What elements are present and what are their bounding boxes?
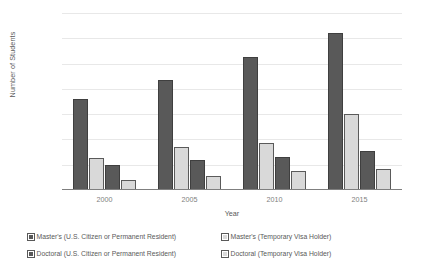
bar-groups — [62, 13, 402, 190]
chart-legend: Master's (U.S. Citizen or Permanent Resi… — [28, 228, 420, 262]
bar — [275, 157, 290, 190]
bar — [89, 158, 104, 190]
bar — [259, 143, 274, 190]
bar — [291, 171, 306, 190]
bar — [174, 147, 189, 190]
legend-item[interactable]: Master's (Temporary Visa Holder) — [222, 233, 420, 240]
legend-swatch-icon — [222, 251, 228, 257]
bar-group — [147, 13, 232, 190]
legend-item[interactable]: Doctoral (U.S. Citizen or Permanent Resi… — [28, 250, 222, 257]
legend-swatch-icon — [222, 234, 228, 240]
legend-label: Master's (Temporary Visa Holder) — [231, 233, 332, 240]
bar — [328, 33, 343, 190]
bar — [105, 165, 120, 190]
legend-swatch-icon — [28, 234, 34, 240]
bar — [360, 151, 375, 190]
bar-chart: Number of Students 020,00040,00060,00080… — [0, 0, 425, 268]
legend-label: Doctoral (Temporary Visa Holder) — [231, 250, 332, 257]
x-axis-tick-labels: 2000200520102015 — [62, 195, 402, 204]
bar — [158, 80, 173, 190]
x-axis-title: Year — [62, 209, 402, 218]
x-axis-tick-label: 2005 — [147, 195, 232, 204]
x-axis-tick-label: 2010 — [232, 195, 317, 204]
legend-item[interactable]: Master's (U.S. Citizen or Permanent Resi… — [28, 233, 222, 240]
x-axis-tick-label: 2015 — [317, 195, 402, 204]
legend-label: Doctoral (U.S. Citizen or Permanent Resi… — [37, 250, 176, 257]
bar — [376, 169, 391, 190]
bar-group — [62, 13, 147, 190]
legend-item[interactable]: Doctoral (Temporary Visa Holder) — [222, 250, 420, 257]
bar — [73, 99, 88, 190]
x-axis-tick-label: 2000 — [62, 195, 147, 204]
y-axis-title: Number of Students — [8, 10, 17, 120]
legend-label: Master's (U.S. Citizen or Permanent Resi… — [37, 233, 177, 240]
legend-swatch-icon — [28, 251, 34, 257]
bar — [243, 57, 258, 190]
bar — [190, 160, 205, 190]
plot-area — [62, 13, 402, 190]
bar — [344, 114, 359, 190]
bar-group — [317, 13, 402, 190]
bar-group — [232, 13, 317, 190]
gridline — [62, 190, 402, 191]
x-axis-line — [62, 189, 402, 190]
